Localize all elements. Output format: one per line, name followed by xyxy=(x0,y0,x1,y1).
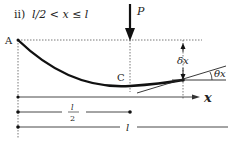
slope-angle-arc xyxy=(210,72,212,80)
span-label: l xyxy=(126,122,129,133)
half-span-start xyxy=(16,110,20,114)
tangent-line xyxy=(137,66,226,93)
deflected-beam-curve xyxy=(18,40,183,86)
half-span-denominator: 2 xyxy=(70,114,75,123)
support-label-a: A xyxy=(4,35,13,46)
span-start xyxy=(16,125,20,129)
deflection-label: δx xyxy=(177,55,189,66)
half-span-end xyxy=(128,110,132,114)
support-point xyxy=(17,39,20,42)
beam-diagram: ii) l/2 < x ≤ l A P C δx θx x l 2 xyxy=(0,0,234,141)
case-condition: l/2 < x ≤ l xyxy=(32,8,89,21)
x-axis-label: x xyxy=(203,90,212,105)
half-span-numerator: l xyxy=(71,103,74,112)
slope-label: θx xyxy=(214,68,226,79)
load-label: P xyxy=(136,5,145,18)
x-axis-origin xyxy=(16,95,19,98)
case-prefix: ii) xyxy=(14,8,25,21)
load-arrow-icon xyxy=(125,4,135,41)
midpoint-label-c: C xyxy=(117,72,125,83)
x-axis-arrow-icon xyxy=(192,95,200,100)
